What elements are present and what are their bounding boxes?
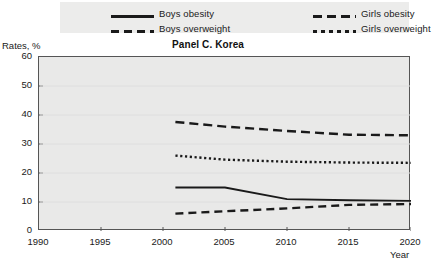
chart-canvas [39,57,411,231]
y-tick-label: 20 [2,166,32,177]
page-title: Panel C. Korea [0,39,416,50]
series-line-girls-overweight [175,156,411,163]
legend-swatch-meddash-icon [111,30,154,33]
plot-area [38,56,410,230]
x-tick-label: 2015 [326,236,370,247]
x-axis-title: Year [390,249,409,260]
legend-label-boys-overweight: Boys overweight [159,23,230,34]
legend-swatch-dotted-icon [313,30,356,33]
y-tick-label: 30 [2,137,32,148]
y-tick-label: 60 [2,50,32,61]
y-tick-label: 50 [2,79,32,90]
x-tick-label: 2020 [388,236,432,247]
legend-label-girls-overweight: Girls overweight [361,23,431,34]
x-tick-label: 1995 [78,236,122,247]
legend-swatch-solid-icon [111,15,154,18]
y-tick-label: 10 [2,195,32,206]
x-tick-label: 2005 [202,236,246,247]
x-tick-label: 2010 [264,236,308,247]
legend-label-girls-obesity: Girls obesity [361,8,415,19]
series-line-boys-overweight [175,204,411,214]
x-tick-label: 1990 [16,236,60,247]
x-tick-label: 2000 [140,236,184,247]
y-tick-label: 0 [2,224,32,235]
legend-swatch-longdash-icon [313,15,356,18]
chart-legend: Boys obesity Girls obesity Boys overweig… [60,2,409,33]
y-tick-label: 40 [2,108,32,119]
legend-label-boys-obesity: Boys obesity [159,8,214,19]
series-line-boys-obesity [175,188,411,201]
series-line-girls-obesity [175,122,411,135]
